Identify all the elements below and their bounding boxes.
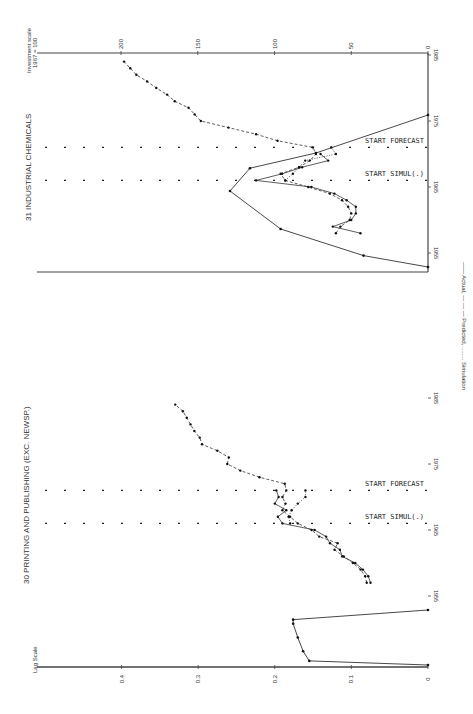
data-point xyxy=(297,502,299,504)
data-point xyxy=(313,529,315,531)
data-point xyxy=(155,87,157,89)
data-point xyxy=(339,225,341,227)
data-point xyxy=(345,199,347,201)
data-point xyxy=(292,173,294,175)
series-simulation xyxy=(289,490,306,523)
data-point xyxy=(347,206,349,208)
start-marker-label: START SIMUL(.) xyxy=(365,170,424,178)
data-point xyxy=(327,159,329,161)
bottom-panel-title: 30 PRINTING AND PUBLISHING (EXC. NEWSP.) xyxy=(22,406,31,584)
chart-panel-printing-publishing: 00.10.20.30.41955196519751985START SIMUL… xyxy=(37,392,439,683)
data-point xyxy=(189,423,191,425)
value-tick-label: 0.3 xyxy=(195,674,201,683)
value-tick-label: 0.1 xyxy=(348,674,354,683)
value-tick-label: 100 xyxy=(272,38,278,49)
data-point xyxy=(352,562,354,564)
data-point xyxy=(258,476,260,478)
data-point xyxy=(284,179,286,181)
data-point xyxy=(301,166,303,168)
data-point xyxy=(201,443,203,445)
year-tick-label: 1955 xyxy=(433,590,439,602)
data-point xyxy=(276,140,278,142)
value-tick-label: 0.4 xyxy=(119,674,125,683)
data-point xyxy=(281,522,283,524)
data-point xyxy=(364,575,366,577)
data-point xyxy=(369,582,371,584)
lag-point xyxy=(249,167,252,170)
data-point xyxy=(285,489,287,491)
data-point xyxy=(355,206,357,208)
data-point xyxy=(281,496,283,498)
data-point xyxy=(359,232,361,234)
data-point xyxy=(228,456,230,458)
data-point xyxy=(318,535,320,537)
lag-point xyxy=(296,636,299,639)
data-point xyxy=(304,159,306,161)
series-actual xyxy=(256,154,360,233)
data-point xyxy=(227,126,229,128)
data-point xyxy=(329,542,331,544)
data-point xyxy=(239,469,241,471)
data-point xyxy=(339,549,341,551)
lag-point xyxy=(362,254,365,257)
data-point xyxy=(287,516,289,518)
data-point xyxy=(281,509,283,511)
year-tick-label: 1975 xyxy=(433,115,439,127)
data-point xyxy=(307,186,309,188)
data-point xyxy=(349,219,351,221)
data-point xyxy=(330,146,332,148)
series-actual xyxy=(275,490,371,582)
data-point xyxy=(332,225,334,227)
data-point xyxy=(333,192,335,194)
data-point xyxy=(135,74,137,76)
data-point xyxy=(289,522,291,524)
value-tick-label: 0 xyxy=(425,677,431,681)
data-point xyxy=(274,502,276,504)
data-point xyxy=(319,153,321,155)
data-point xyxy=(329,192,331,194)
data-point xyxy=(336,542,338,544)
data-point xyxy=(193,113,195,115)
data-point xyxy=(193,430,195,432)
data-point xyxy=(200,120,202,122)
data-point xyxy=(335,232,337,234)
bottom-value-axis-label: Lag Scale xyxy=(32,646,38,673)
data-point xyxy=(350,212,352,214)
lag-point xyxy=(427,266,430,269)
year-tick-label: 1965 xyxy=(433,181,439,193)
data-point xyxy=(284,483,286,485)
data-point xyxy=(367,575,369,577)
data-point xyxy=(304,496,306,498)
data-point xyxy=(366,582,368,584)
data-point xyxy=(304,489,306,491)
value-tick-label: 0 xyxy=(425,45,431,49)
data-point xyxy=(359,568,361,570)
start-marker-label: START FORECAST xyxy=(365,480,425,488)
data-point xyxy=(325,535,327,537)
lag-point xyxy=(427,664,430,667)
year-tick-label: 1955 xyxy=(433,247,439,259)
data-point xyxy=(255,133,257,135)
data-point xyxy=(182,410,184,412)
data-point xyxy=(279,173,281,175)
value-tick-label: 50 xyxy=(348,42,354,49)
start-marker-label: START SIMUL(.) xyxy=(365,513,424,521)
lag-point xyxy=(229,190,232,193)
data-point xyxy=(355,212,357,214)
data-point xyxy=(298,166,300,168)
value-tick-label: 0.2 xyxy=(272,674,278,683)
legend: —— Actual, — — — Predicted, ........ Sim… xyxy=(461,262,467,390)
data-point xyxy=(297,522,299,524)
year-tick-label: 1975 xyxy=(433,458,439,470)
data-point xyxy=(277,496,279,498)
lag-point xyxy=(427,609,430,612)
data-point xyxy=(362,568,364,570)
data-point xyxy=(275,489,277,491)
start-marker-label: START FORECAST xyxy=(365,137,425,145)
data-point xyxy=(315,153,317,155)
lag-point xyxy=(292,618,295,621)
data-point xyxy=(285,509,287,511)
lag-point xyxy=(427,114,430,117)
data-point xyxy=(310,529,312,531)
data-point xyxy=(354,562,356,564)
